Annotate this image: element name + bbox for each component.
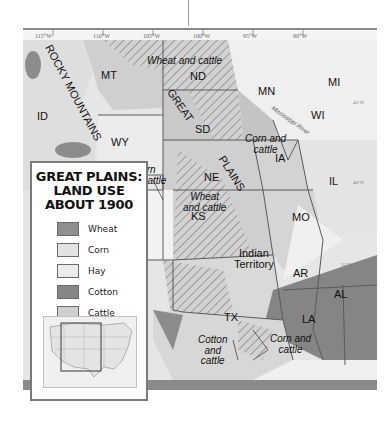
legend-swatch-wheat	[57, 222, 79, 236]
legend-title: GREAT PLAINS: LAND USE ABOUT 1900	[32, 170, 146, 212]
state-label-id: ID	[37, 111, 48, 122]
longitude-label: 110°W	[93, 33, 110, 39]
longitude-label: 105°W	[143, 33, 160, 39]
indian-territory-label: IndianTerritory	[234, 248, 274, 270]
state-label-mn: MN	[258, 86, 275, 97]
legend-item-cotton: Cotton	[57, 281, 146, 302]
longitude-label: 90°W	[293, 33, 307, 39]
state-label-ar: AR	[293, 268, 308, 279]
legend-swatch-corn	[57, 243, 79, 257]
legend-item-hay: Hay	[57, 260, 146, 281]
annotation-corn-cattle-tx: Corn andcattle	[270, 334, 311, 355]
annotation-corn-cattle-ia: Corn andcattle	[245, 134, 286, 155]
state-label-nd: ND	[190, 71, 206, 82]
legend-items: Wheat Corn Hay Cotton Cattle	[57, 218, 146, 323]
latitude-label: 45°N	[353, 100, 364, 105]
us-locator-map	[44, 317, 136, 387]
legend-swatch-cotton	[57, 285, 79, 299]
legend-swatch-hay	[57, 264, 79, 278]
state-label-la: LA	[302, 314, 315, 325]
locator-inset-map	[43, 316, 137, 388]
legend-item-wheat: Wheat	[57, 218, 146, 239]
state-label-sd: SD	[195, 124, 210, 135]
state-label-mt: MT	[101, 70, 117, 81]
state-label-mo: MO	[292, 212, 310, 223]
latitude-label: 30°N	[341, 342, 352, 347]
state-label-tx: TX	[224, 312, 238, 323]
state-label-wy: WY	[111, 137, 129, 148]
annotation-wheat-cattle-north: Wheat and cattle	[147, 56, 222, 67]
legend: GREAT PLAINS: LAND USE ABOUT 1900 Wheat …	[30, 161, 148, 401]
state-label-mi: MI	[328, 77, 340, 88]
longitude-label: 115°W	[35, 33, 52, 39]
latitude-label: 35°N	[341, 262, 352, 267]
state-label-ne: NE	[204, 172, 219, 183]
longitude-label: 95°W	[243, 33, 257, 39]
annotation-cotton-cattle: Cottonandcattle	[198, 335, 227, 367]
latitude-label: 40°N	[353, 180, 364, 185]
annotation-wheat-cattle-ks: Wheatand cattle	[183, 192, 226, 213]
leader-line	[188, 0, 189, 26]
state-label-al: AL	[334, 289, 347, 300]
longitude-label: 100°W	[193, 33, 210, 39]
legend-item-corn: Corn	[57, 239, 146, 260]
state-label-wi: WI	[311, 110, 324, 121]
state-label-il: IL	[329, 176, 338, 187]
